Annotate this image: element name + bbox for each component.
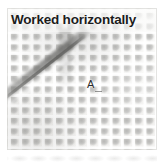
figure-title: Worked horizontally bbox=[11, 11, 136, 28]
callout-label-a: A bbox=[87, 79, 94, 90]
figure-container: Worked horizontally A bbox=[0, 0, 165, 162]
callout-leader-line bbox=[95, 91, 102, 92]
print-artifact-strip bbox=[7, 151, 157, 162]
fabric-photograph: Worked horizontally A bbox=[7, 8, 157, 150]
